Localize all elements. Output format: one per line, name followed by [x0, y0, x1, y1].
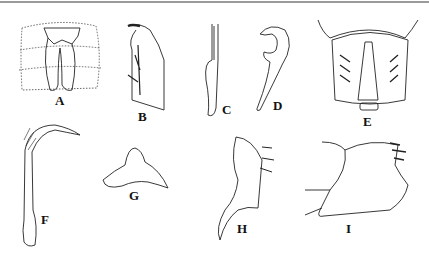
panel-label-f: F	[41, 213, 49, 226]
panel-label-b: B	[138, 110, 147, 123]
panel-e-drawing	[318, 20, 418, 110]
figure-drawings	[0, 0, 429, 259]
panel-c-drawing	[206, 24, 218, 116]
panel-label-c: C	[222, 103, 231, 116]
panel-a-drawing	[19, 22, 101, 90]
panel-i-drawing	[305, 142, 408, 216]
panel-label-i: I	[346, 222, 351, 235]
panel-b-drawing	[128, 25, 164, 110]
panel-g-drawing	[103, 148, 168, 188]
panel-label-d: D	[273, 99, 282, 112]
panel-f-drawing	[23, 125, 80, 246]
panel-label-e: E	[363, 115, 372, 128]
panel-label-h: H	[237, 222, 247, 235]
panel-label-a: A	[55, 94, 64, 107]
panel-label-g: G	[129, 189, 139, 202]
